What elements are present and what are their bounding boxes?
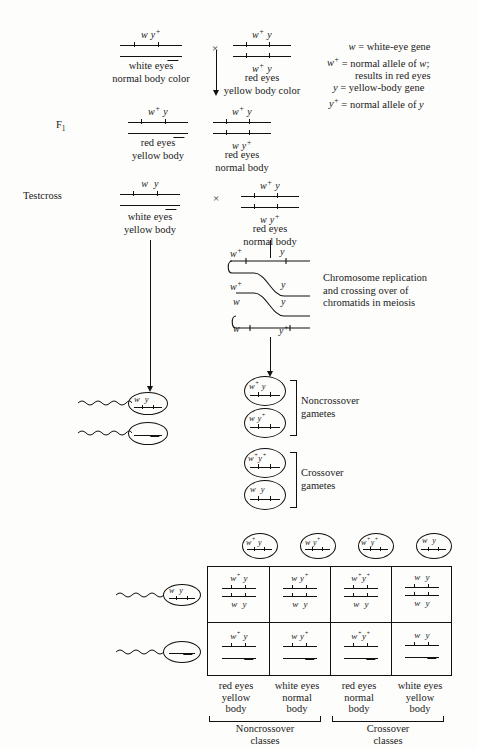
cell-top-alleles: w+y+ (338, 572, 384, 583)
noncrossover-classes-line2: classes (209, 735, 321, 747)
phenotype-1-line2: yellow (205, 692, 267, 704)
locus-tick (438, 547, 439, 551)
cell-top-chromosome (277, 642, 323, 649)
testcross-female-top-alleles: w+ y (241, 178, 299, 191)
sperm-tail-grid-1 (116, 591, 166, 599)
crossover-gametes-bracket (290, 452, 297, 508)
punnett-cell-r1c2: w y+ w y (277, 572, 323, 609)
chromatid-lines-svg (224, 258, 316, 336)
chromosome-bar (250, 499, 280, 500)
punnett-header-1-chromosome (247, 547, 272, 551)
chromosome-bar (120, 45, 182, 46)
sperm-tail-svg (78, 429, 132, 437)
testcross-male-x-alleles: w y (120, 178, 180, 189)
grid-horizontal-separator (208, 622, 451, 623)
meiosis-figure: w+ y w+ y w y w y+ (224, 258, 316, 336)
punnett-header-3-alleles: w+y+ (361, 536, 379, 547)
chromosome-locus-tick (277, 193, 278, 198)
f1-label-subscript: 1 (62, 124, 66, 133)
arrow-testcross-female-line (270, 240, 271, 258)
sperm-tail-svg (116, 591, 166, 599)
cell-bottom-chromosome (338, 592, 384, 599)
legend-line-3: results in red eyes (327, 70, 431, 83)
punnett-header-4-alleles: w y (422, 536, 436, 545)
chromosome-locus-tick (133, 191, 134, 196)
crossover-label-line2: gametes (301, 480, 344, 493)
cell-top-chromosome (399, 583, 445, 590)
chromosome-locus-tick (249, 130, 250, 135)
legend-line-2: w+ = normal allele of w; (327, 54, 431, 70)
cell-top-alleles: w+y+ (338, 630, 384, 641)
f1-female-phenotype: red eyes normal body (181, 149, 303, 174)
p-female-x1-chromosome (233, 41, 291, 50)
locus-tick (270, 424, 271, 429)
locus-tick (264, 547, 265, 551)
punnett-header-1-alleles: w+ y (246, 536, 262, 547)
meiosis-caption-line3: chromatids in meiosis (323, 297, 427, 310)
legend-line-1: w = white-eye gene (327, 41, 431, 54)
f1-row-label: F1 (56, 119, 66, 136)
testcross-female-x1-chromosome (241, 192, 299, 201)
p-male-genotype: w y+ (120, 27, 182, 62)
gamete-1-chromosome (250, 392, 280, 397)
chromosome-locus-tick (254, 204, 255, 209)
gamete-3-chromosome (250, 464, 280, 469)
chromosome-locus-tick (141, 119, 142, 124)
p-female-genotype: w+ y w+ y (233, 27, 291, 75)
locus-tick (153, 405, 154, 409)
cell-bottom-chromosome (399, 591, 445, 598)
centromere-lower (232, 316, 236, 328)
phenotype-column-3: red eyes normal body (328, 680, 390, 715)
testcross-female-phenotype-line1: red eyes (209, 223, 331, 236)
locus-tick (428, 547, 429, 551)
punnett-cell-r2c4: w y (399, 630, 445, 661)
punnett-cell-r1c3: w+y+ w y (338, 572, 384, 609)
cell-y-chromosome (399, 651, 445, 661)
punnett-cell-r2c3: w+y+ (338, 630, 384, 662)
chromosome-locus-tick (158, 42, 159, 47)
punnett-header-2-alleles: w y+ (305, 536, 321, 547)
y-chromosome-hook (165, 201, 184, 210)
locus-tick (258, 496, 259, 501)
meiosis-caption-line2: and crossing over of (323, 285, 427, 298)
noncrossover-gametes-label: Noncrossover gametes (301, 395, 359, 420)
cell-y-chromosome (216, 652, 262, 662)
phenotype-column-2: white eyes normal body (266, 680, 328, 715)
chromosome-locus-tick (269, 42, 270, 47)
centromere-upper (228, 261, 232, 273)
crossover-gametes-label: Crossover gametes (301, 467, 344, 492)
chromatid-line-3-hidden (232, 296, 284, 318)
gamete-4-chromosome (250, 496, 280, 501)
p-female-phenotype-line2: yellow body color (200, 85, 324, 98)
chromosome-bar (421, 549, 446, 550)
p-male-phenotype-line1: white eyes (90, 60, 212, 73)
p-male-phenotype: white eyes normal body color (90, 60, 212, 85)
sperm-y-grid-chromosome (169, 648, 195, 656)
chromosome-bar (241, 196, 299, 197)
f1-female-top-alleles: w+ y (213, 104, 271, 117)
p-female-phenotype: red eyes yellow body color (200, 72, 324, 97)
legend-line-5: y+ = normal allele of y (327, 95, 431, 111)
testcross-male-genotype: w y (120, 178, 180, 211)
f1-female-phenotype-line1: red eyes (181, 149, 303, 162)
testcross-male-phenotype: white eyes yellow body (89, 211, 211, 236)
locus-tick (380, 547, 381, 551)
legend-line-4: y = yellow-body gene (327, 82, 431, 95)
cell-top-chromosome (216, 642, 262, 649)
chromosome-locus-tick (254, 193, 255, 198)
f1-female-phenotype-line2: normal body (181, 162, 303, 175)
locus-tick (258, 392, 259, 397)
gamete-2-alleles: w y+ (249, 412, 266, 423)
meiosis-caption-line1: Chromosome replication (323, 272, 427, 285)
legend-gene-w-plus: w+ (327, 57, 339, 68)
phenotype-1-line3: body (205, 703, 267, 715)
meiosis-caption: Chromosome replication and crossing over… (323, 272, 427, 310)
sperm-tail-svg (78, 399, 132, 407)
f1-female-x2-chromosome (213, 129, 271, 138)
arrow-testcross-male-line (150, 240, 151, 388)
chromosome-locus-tick (157, 191, 158, 196)
p-female-phenotype-line1: red eyes (200, 72, 324, 85)
chromosome-bar (250, 467, 280, 468)
p-female-top-alleles: w+ y (233, 27, 291, 40)
testcross-female-genotype: w+ y w y+ (241, 178, 299, 226)
